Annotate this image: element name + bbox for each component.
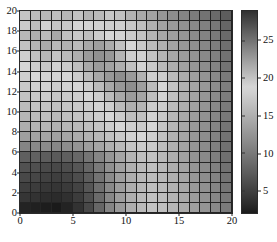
heatmap-cell (137, 21, 148, 31)
heatmap-cell (168, 142, 179, 152)
heatmap-cell (137, 72, 148, 82)
heatmap-cell (211, 51, 222, 61)
heatmap-cell (52, 142, 63, 152)
heatmap-cell (52, 62, 63, 72)
heatmap-cell (126, 122, 137, 132)
heatmap-cell (94, 203, 105, 213)
heatmap-cell (137, 11, 148, 21)
heatmap-cell (179, 163, 190, 173)
heatmap-cell (200, 142, 211, 152)
heatmap-cell (62, 183, 73, 193)
heatmap-cell (158, 102, 169, 112)
heatmap-cell (168, 21, 179, 31)
colorbar-tick-label: 25 (263, 35, 274, 46)
heatmap-cell (221, 92, 232, 102)
heatmap-cell (84, 163, 95, 173)
heatmap-cell (73, 142, 84, 152)
heatmap-cell (94, 152, 105, 162)
heatmap-cell (211, 11, 222, 21)
heatmap-cell (20, 31, 31, 41)
heatmap-cell (31, 132, 42, 142)
heatmap-cell (20, 82, 31, 92)
heatmap-cell (190, 92, 201, 102)
heatmap-cell (73, 173, 84, 183)
heatmap-cell (62, 82, 73, 92)
heatmap-cell (179, 72, 190, 82)
heatmap-cell (190, 21, 201, 31)
heatmap-cell (41, 142, 52, 152)
heatmap-cell (52, 11, 63, 21)
heatmap-cell (137, 92, 148, 102)
heatmap-cell (41, 112, 52, 122)
heatmap-cell (179, 193, 190, 203)
heatmap-cell (84, 82, 95, 92)
heatmap-cell (168, 203, 179, 213)
heatmap-cell (190, 51, 201, 61)
y-axis-tick-mark (17, 132, 20, 133)
y-axis-tick-mark (17, 71, 20, 72)
y-axis-tick-mark (17, 152, 20, 153)
heatmap-cell (168, 62, 179, 72)
heatmap-cell (147, 142, 158, 152)
heatmap-cell (221, 122, 232, 132)
heatmap-cell (105, 163, 116, 173)
heatmap-cell (200, 173, 211, 183)
heatmap-cell (31, 92, 42, 102)
heatmap-cell (126, 193, 137, 203)
heatmap-cell (94, 102, 105, 112)
heatmap-cell (221, 82, 232, 92)
heatmap-cell (168, 51, 179, 61)
heatmap-cell (105, 92, 116, 102)
heatmap-cell (52, 112, 63, 122)
heatmap-cell (190, 132, 201, 142)
y-axis-tick-mark (17, 11, 20, 12)
heatmap-cell (105, 203, 116, 213)
heatmap-cell (73, 102, 84, 112)
heatmap-cell (147, 173, 158, 183)
heatmap-cell (31, 142, 42, 152)
heatmap-cell (179, 203, 190, 213)
heatmap-cell (168, 122, 179, 132)
heatmap-cell (211, 142, 222, 152)
heatmap-cell (190, 142, 201, 152)
heatmap-cell (94, 21, 105, 31)
heatmap-cell (84, 72, 95, 82)
heatmap-cell (147, 132, 158, 142)
heatmap-cell (147, 92, 158, 102)
heatmap-cell (137, 122, 148, 132)
heatmap-cell (41, 21, 52, 31)
heatmap-cell (190, 173, 201, 183)
heatmap-cell (94, 11, 105, 21)
heatmap-cell (126, 132, 137, 142)
heatmap-cell (158, 122, 169, 132)
heatmap-cell (221, 132, 232, 142)
heatmap-cell (20, 132, 31, 142)
y-axis-tick-label: 10 (7, 107, 18, 118)
heatmap-cell (20, 203, 31, 213)
colorbar-tick-mark-inner (242, 115, 245, 116)
colorbar-tick-mark-inner (242, 190, 245, 191)
heatmap-cell (137, 41, 148, 51)
heatmap-cell (190, 203, 201, 213)
heatmap-cell (62, 51, 73, 61)
heatmap-cell (73, 82, 84, 92)
heatmap-cell (94, 173, 105, 183)
heatmap-cell (179, 82, 190, 92)
heatmap-cell (221, 203, 232, 213)
heatmap-cell (84, 21, 95, 31)
heatmap-cell (115, 21, 126, 31)
heatmap-cell (41, 82, 52, 92)
heatmap-cell (115, 132, 126, 142)
heatmap-cell (211, 92, 222, 102)
heatmap-cell (41, 203, 52, 213)
heatmap-cell (115, 62, 126, 72)
heatmap-cell (31, 183, 42, 193)
heatmap-cell (31, 163, 42, 173)
colorbar-tick-mark-inner (242, 78, 245, 79)
heatmap-cell (137, 102, 148, 112)
heatmap-cell (179, 112, 190, 122)
heatmap-cell (137, 132, 148, 142)
heatmap-cell (200, 132, 211, 142)
heatmap-cell (221, 11, 232, 21)
heatmap-cell (41, 62, 52, 72)
